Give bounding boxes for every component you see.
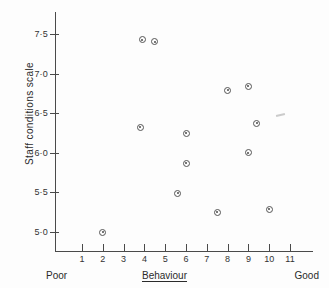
x-tick-label: 5 [154, 254, 176, 264]
data-point [214, 209, 221, 216]
x-tick [82, 244, 83, 252]
x-tick-label: 9 [237, 254, 259, 264]
y-tick [50, 74, 59, 75]
x-axis-line [55, 251, 313, 252]
y-tick [50, 34, 59, 35]
x-axis-title-text: Behaviour [142, 270, 187, 281]
x-tick [165, 244, 166, 252]
data-point [174, 190, 181, 197]
x-tick [228, 244, 229, 252]
x-tick [186, 244, 187, 252]
data-point [253, 120, 260, 127]
x-tick [269, 244, 270, 252]
x-axis-title: Behaviour [0, 270, 329, 281]
x-tick [144, 244, 145, 252]
x-axis-high-label: Good [295, 270, 319, 281]
data-point [151, 38, 158, 45]
scan-artifact-mark [276, 113, 285, 117]
x-tick-label: 4 [133, 254, 155, 264]
x-tick-label: 1 [71, 254, 93, 264]
data-point [266, 206, 273, 213]
x-tick [124, 244, 125, 252]
x-tick-label: 11 [279, 254, 301, 264]
y-tick-label: 5·5 [22, 188, 48, 197]
x-tick-label: 7 [196, 254, 218, 264]
x-tick-label: 6 [175, 254, 197, 264]
x-tick [103, 244, 104, 252]
y-tick-label: 7·0 [22, 70, 48, 79]
data-point [139, 36, 146, 43]
x-tick [290, 244, 291, 252]
x-tick-label: 10 [258, 254, 280, 264]
data-point [183, 160, 190, 167]
x-tick-label: 8 [217, 254, 239, 264]
y-tick [50, 232, 59, 233]
data-point [245, 83, 252, 90]
x-tick [248, 244, 249, 252]
x-tick-label: 3 [113, 254, 135, 264]
scatter-plot-figure: Staff conditions scale 7·57·06·56·05·55·… [0, 0, 329, 288]
x-tick [207, 244, 208, 252]
data-point [99, 229, 106, 236]
data-point [224, 87, 231, 94]
y-tick-label: 6·5 [22, 109, 48, 118]
y-tick [50, 113, 59, 114]
x-tick-label: 2 [92, 254, 114, 264]
data-point [137, 124, 144, 131]
data-point [183, 130, 190, 137]
y-tick-label: 6·0 [22, 149, 48, 158]
data-point [245, 149, 252, 156]
y-tick-label: 5·0 [22, 228, 48, 237]
y-tick-label: 7·5 [22, 30, 48, 39]
y-tick [50, 192, 59, 193]
y-axis-line [55, 12, 56, 252]
y-tick [50, 153, 59, 154]
